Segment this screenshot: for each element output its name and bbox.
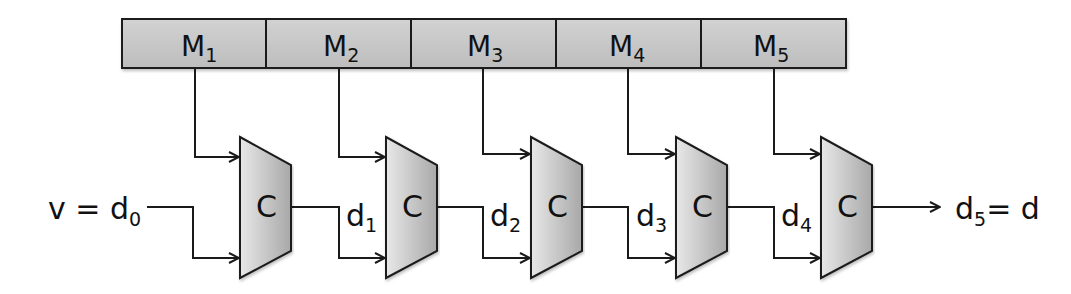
intermediate-label-d4: d4 (781, 198, 812, 236)
memory-bar: M1 M2 M3 M4 M5 (122, 19, 846, 68)
compression-chain-diagram: M1 M2 M3 M4 M5 C C C C C (0, 0, 1071, 294)
intermediate-label-d2: d2 (490, 198, 521, 236)
output-label: d5= d (955, 191, 1040, 230)
intermediate-label-d1: d1 (346, 198, 377, 236)
svg-text:C: C (692, 189, 713, 224)
svg-text:C: C (837, 189, 858, 224)
svg-text:C: C (547, 189, 568, 224)
compression-block-1: C (240, 137, 291, 278)
svg-text:C: C (256, 189, 277, 224)
compression-block-2: C (386, 137, 437, 278)
memory-tap-wires (195, 68, 820, 157)
intermediate-label-d3: d3 (636, 198, 667, 236)
compression-block-4: C (676, 137, 727, 278)
svg-text:C: C (402, 189, 423, 224)
compression-block-3: C (531, 137, 582, 278)
compression-block-5: C (821, 137, 872, 278)
input-label: v = d0 (48, 191, 141, 230)
